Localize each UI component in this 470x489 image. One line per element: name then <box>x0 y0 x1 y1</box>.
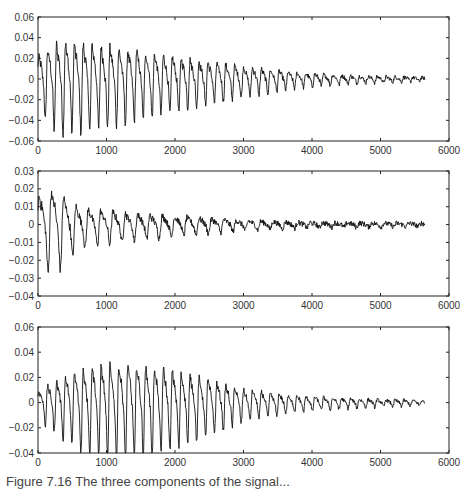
x-tick-label: 2000 <box>164 457 187 468</box>
y-tick-label: 0.01 <box>15 201 35 212</box>
y-tick-label: 0.06 <box>15 322 35 333</box>
y-tick-label: 0.04 <box>15 32 35 43</box>
y-tick-label: −0.02 <box>9 94 35 105</box>
figure-caption: Figure 7.16 The three components of the … <box>6 474 290 489</box>
x-tick-label: 3000 <box>232 457 255 468</box>
y-tick-label: −0.06 <box>9 136 35 147</box>
y-tick-label: 0.02 <box>15 372 35 383</box>
y-tick-label: −0.01 <box>9 237 35 248</box>
signal-line <box>38 41 425 138</box>
y-tick-label: 0 <box>28 74 34 85</box>
x-tick-label: 2000 <box>164 300 187 311</box>
x-tick-label: 6000 <box>438 457 461 468</box>
x-tick-label: 4000 <box>301 457 324 468</box>
y-tick-label: 0.02 <box>15 183 35 194</box>
x-tick-label: 0 <box>35 457 41 468</box>
y-tick-label: −0.03 <box>9 273 35 284</box>
x-tick-label: 1000 <box>95 300 118 311</box>
y-tick-label: 0.04 <box>15 347 35 358</box>
x-tick-label: 2000 <box>164 145 187 156</box>
y-tick-label: 0 <box>28 397 34 408</box>
y-tick-label: −0.02 <box>9 422 35 433</box>
chart-panel-2: 01000200030004000500060000.030.020.010−0… <box>9 166 461 312</box>
x-tick-label: 3000 <box>232 145 255 156</box>
signal-line <box>38 191 425 273</box>
x-tick-label: 4000 <box>301 300 324 311</box>
x-tick-label: 4000 <box>301 145 324 156</box>
x-tick-label: 6000 <box>438 145 461 156</box>
y-tick-label: 0.06 <box>15 12 35 23</box>
y-tick-label: −0.04 <box>9 115 35 126</box>
chart-panel-1: 01000200030004000500060000.060.040.020−0… <box>9 12 461 157</box>
y-tick-label: 0.03 <box>15 166 35 177</box>
x-tick-label: 0 <box>35 145 41 156</box>
x-tick-label: 5000 <box>369 300 392 311</box>
signal-line <box>38 362 425 454</box>
x-tick-label: 1000 <box>95 457 118 468</box>
x-tick-label: 3000 <box>232 300 255 311</box>
y-tick-label: −0.04 <box>9 291 35 302</box>
x-tick-label: 5000 <box>369 457 392 468</box>
x-tick-label: 6000 <box>438 300 461 311</box>
x-tick-label: 1000 <box>95 145 118 156</box>
y-tick-label: −0.04 <box>9 448 35 459</box>
chart-panel-3: 01000200030004000500060000.060.040.020−0… <box>9 322 461 469</box>
y-tick-label: 0 <box>28 219 34 230</box>
x-tick-label: 5000 <box>369 145 392 156</box>
y-tick-label: −0.02 <box>9 255 35 266</box>
x-tick-label: 0 <box>35 300 41 311</box>
axes-frame <box>38 171 449 296</box>
y-tick-label: 0.02 <box>15 53 35 64</box>
